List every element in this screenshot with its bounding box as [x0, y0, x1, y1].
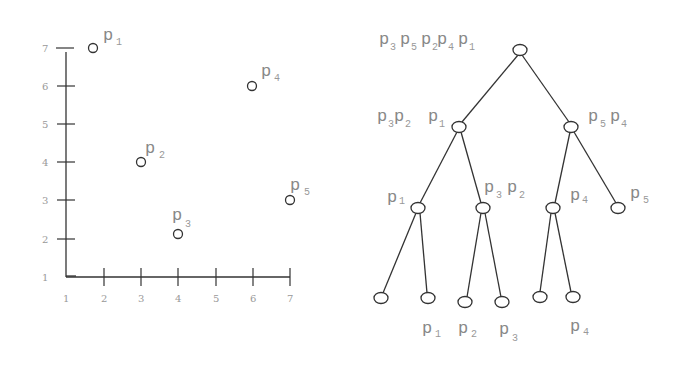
svg-text:p: p	[290, 176, 300, 195]
tree-label-right: p5 p4	[588, 107, 627, 130]
svg-text:1: 1	[435, 329, 441, 340]
svg-text:4: 4	[583, 327, 589, 338]
point-marker	[248, 82, 257, 91]
svg-text:p: p	[145, 139, 155, 158]
tree-node-right-right	[611, 203, 625, 214]
svg-text:p: p	[570, 317, 580, 336]
svg-text:p: p	[484, 178, 494, 197]
tree-label-leaf-6: p4	[570, 317, 589, 338]
x-tick-labels: 1 2 3 4 5 6 7	[63, 293, 293, 304]
point-p1: p 1	[89, 26, 123, 53]
y-tick-7: 7	[42, 43, 48, 54]
svg-text:4: 4	[274, 73, 280, 84]
svg-text:p: p	[499, 320, 509, 339]
svg-text:1: 1	[116, 37, 122, 48]
tree-label-left-left: p1	[387, 188, 405, 207]
point-p2: p 2	[137, 139, 166, 167]
point-marker	[89, 44, 98, 53]
svg-text:4: 4	[621, 119, 627, 130]
scatter-plot: 7 6 5 4 3 2 1 1 2 3 4 5 6 7	[42, 26, 310, 304]
svg-text:5: 5	[643, 195, 649, 206]
tree-label-root: p3 p5 p2 p4 p p1	[379, 30, 475, 53]
tree-label-right-left: p4	[570, 186, 588, 206]
svg-text:3: 3	[185, 219, 191, 230]
figure-canvas: 7 6 5 4 3 2 1 1 2 3 4 5 6 7	[0, 0, 678, 366]
svg-text:3: 3	[496, 190, 502, 201]
svg-text:2: 2	[519, 190, 525, 201]
svg-text:p: p	[507, 178, 517, 197]
tree-node-left-left	[411, 203, 425, 214]
svg-text:2: 2	[159, 150, 165, 161]
svg-text:5: 5	[304, 187, 310, 198]
tree-node-root	[513, 45, 527, 56]
tree-leaf-1	[374, 293, 388, 304]
svg-text:5: 5	[411, 42, 417, 53]
svg-text:p: p	[437, 30, 447, 49]
tree-leaf-5	[533, 292, 547, 303]
x-tick-5: 5	[213, 293, 219, 304]
point-marker	[286, 196, 295, 205]
svg-text:p: p	[387, 188, 397, 207]
point-marker	[137, 158, 146, 167]
tree-leaf-6	[566, 292, 580, 303]
point-p4: p 4	[248, 62, 281, 91]
y-tick-5: 5	[42, 119, 48, 130]
tree-node-right-left	[546, 203, 560, 214]
svg-text:p: p	[377, 107, 387, 126]
svg-text:p: p	[172, 206, 182, 225]
tree-label-left: p3 p2 p1	[377, 107, 445, 130]
y-tick-3: 3	[42, 195, 48, 206]
tree-node-left	[452, 122, 466, 133]
point-p5: p 5	[286, 176, 311, 205]
y-tick-4: 4	[42, 157, 48, 168]
tree-label-leaf-4: p3	[499, 320, 518, 344]
tree-diagram: p3 p5 p2 p4 p p1 p3 p2 p1 p5 p4 p1 p3 p2…	[374, 30, 649, 344]
x-tick-1: 1	[63, 293, 69, 304]
svg-text:2: 2	[405, 119, 411, 130]
y-tick-labels: 7 6 5 4 3 2 1	[42, 43, 48, 283]
svg-text:p: p	[261, 62, 271, 81]
svg-text:4: 4	[448, 42, 454, 53]
svg-text:p: p	[421, 30, 431, 49]
y-tick-6: 6	[42, 81, 48, 92]
tree-node-right	[564, 122, 578, 133]
svg-text:1: 1	[439, 119, 445, 130]
svg-text:p: p	[588, 107, 598, 126]
tree-leaf-3	[458, 297, 472, 308]
x-tick-3: 3	[138, 293, 144, 304]
y-tick-2: 2	[42, 234, 48, 245]
tree-label-leaf-2: p1	[422, 319, 441, 340]
svg-text:2: 2	[471, 329, 477, 340]
svg-text:3: 3	[512, 333, 518, 344]
svg-text:p: p	[458, 319, 468, 338]
tree-edges	[383, 55, 616, 297]
x-tick-7: 7	[287, 293, 293, 304]
tree-leaf-4	[495, 297, 509, 308]
tree-node-left-right	[476, 203, 490, 214]
y-tick-1: 1	[42, 272, 48, 283]
svg-text:p: p	[400, 30, 410, 49]
svg-text:5: 5	[600, 119, 606, 130]
svg-text:p: p	[458, 30, 468, 49]
svg-text:p: p	[630, 184, 640, 203]
tree-leaf-2	[421, 293, 435, 304]
svg-text:1: 1	[399, 196, 405, 207]
svg-text:4: 4	[582, 195, 588, 206]
svg-text:1: 1	[469, 42, 475, 53]
svg-text:p: p	[428, 107, 438, 126]
svg-text:p: p	[379, 30, 389, 49]
svg-text:p: p	[394, 107, 404, 126]
tree-label-right-right: p5	[630, 184, 649, 206]
svg-text:p: p	[610, 107, 620, 126]
svg-text:p: p	[103, 26, 113, 45]
x-tick-4: 4	[175, 293, 181, 304]
x-tick-2: 2	[101, 293, 107, 304]
svg-text:p: p	[422, 319, 432, 338]
point-marker	[174, 230, 183, 239]
x-tick-6: 6	[250, 293, 256, 304]
svg-text:p: p	[570, 186, 580, 205]
tree-label-leaf-3: p2	[458, 319, 477, 340]
tree-label-left-right: p3 p2	[484, 178, 525, 201]
point-p3: p 3	[172, 206, 191, 239]
svg-text:3: 3	[390, 42, 396, 53]
